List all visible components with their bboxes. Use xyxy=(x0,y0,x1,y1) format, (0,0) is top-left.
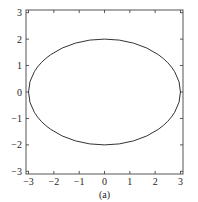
x-tick-label: 0 xyxy=(102,176,107,187)
y-tick-label: 2 xyxy=(17,34,22,45)
y-tick-label: −2 xyxy=(11,139,22,150)
y-tick-label: −1 xyxy=(11,113,22,124)
plot-curves xyxy=(29,39,181,145)
y-tick-label: 3 xyxy=(17,7,22,18)
y-tick-label: −3 xyxy=(11,166,22,177)
x-axis-ticks: −3−2−10123 xyxy=(23,10,183,187)
x-tick-label: 2 xyxy=(153,176,158,187)
x-tick-label: 3 xyxy=(178,176,183,187)
plot-frame xyxy=(26,10,183,174)
ellipse-chart: −3−2−10123 −3−2−10123 (a) xyxy=(0,0,198,202)
y-tick-label: 1 xyxy=(17,60,22,71)
x-tick-label: 1 xyxy=(127,176,132,187)
ellipse-curve xyxy=(29,39,181,145)
x-tick-label: −1 xyxy=(74,176,85,187)
y-tick-label: 0 xyxy=(17,87,22,98)
x-tick-label: −3 xyxy=(23,176,34,187)
figure-caption: (a) xyxy=(99,189,110,201)
y-axis-ticks: −3−2−10123 xyxy=(11,7,183,177)
x-tick-label: −2 xyxy=(49,176,60,187)
